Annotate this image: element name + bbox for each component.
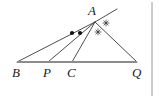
angle-star-QAX [103,20,110,27]
angle-markers [70,20,110,36]
geometry-figure: A B P C Q [0,0,161,98]
vertex-label-A: A [88,4,96,17]
angle-star-CAQ [95,29,102,36]
cevian-rays [17,22,137,62]
angle-dot-BAP [70,31,74,35]
vertex-label-B: B [12,66,20,79]
angle-dot-PAC [78,31,82,35]
segment-AQ [95,22,137,62]
figure-canvas [0,0,161,98]
vertex-label-Q: Q [132,66,141,79]
vertex-label-P: P [43,66,51,79]
vertex-label-C: C [67,66,76,79]
